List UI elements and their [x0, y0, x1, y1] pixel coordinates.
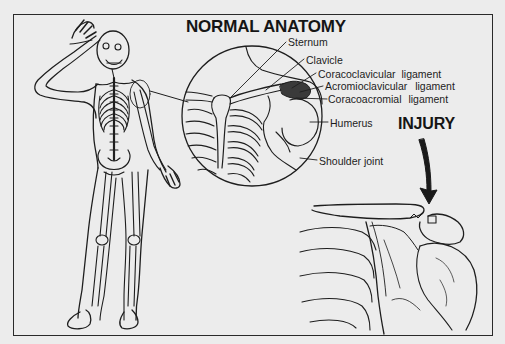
- magnify-connector-line: [150, 91, 188, 102]
- label-sternum: Sternum: [288, 36, 328, 48]
- injury-arrow-icon: [419, 139, 437, 204]
- anatomy-illustration: [0, 0, 505, 344]
- label-coracoclavicular-ligament: Coracoclavicular ligament: [318, 68, 441, 80]
- label-clavicle: Clavicle: [306, 54, 343, 66]
- injury-title: INJURY: [398, 115, 455, 133]
- label-coracoacromial-ligament: Coracoacromial ligament: [328, 93, 448, 105]
- skeleton-figure: [35, 20, 180, 329]
- magnified-shoulder-view: [182, 46, 322, 186]
- label-acromioclavicular-ligament: Acromioclavicular ligament: [325, 80, 455, 92]
- label-shoulder-joint: Shoulder joint: [319, 155, 383, 167]
- injured-shoulder-view: [300, 204, 477, 334]
- label-humerus: Humerus: [330, 117, 373, 129]
- normal-anatomy-title: NORMAL ANATOMY: [186, 17, 346, 37]
